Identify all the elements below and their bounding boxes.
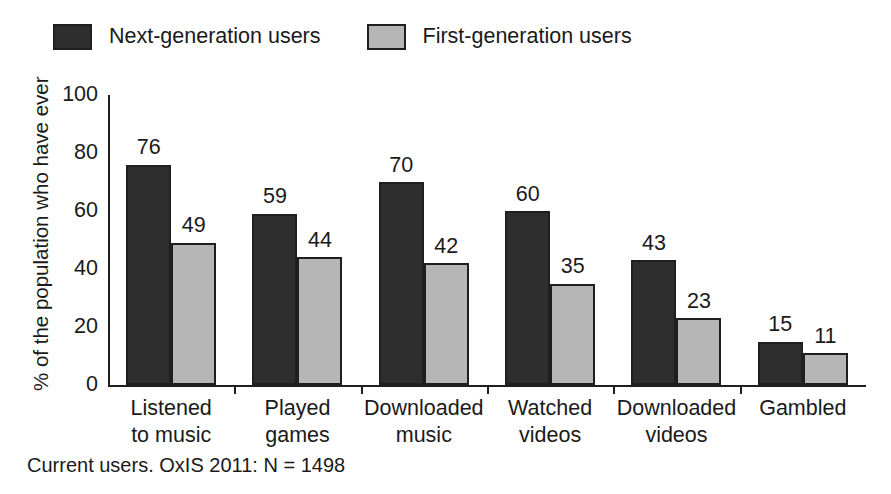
bar-group: 7042 bbox=[361, 95, 487, 385]
chart-legend: Next-generation users First-generation u… bbox=[53, 22, 632, 52]
bar-group: 7649 bbox=[108, 95, 234, 385]
y-axis-tick-label: 20 bbox=[74, 316, 98, 338]
category-label-line2: to music bbox=[108, 422, 234, 449]
bar-slot: 44 bbox=[297, 95, 342, 385]
y-axis-tick-label: 40 bbox=[74, 258, 98, 280]
bar-slot: 76 bbox=[126, 95, 171, 385]
category-label-line1: Downloaded bbox=[617, 396, 737, 420]
category-label-line1: Watched bbox=[508, 396, 592, 420]
bar-value-label: 23 bbox=[687, 291, 711, 313]
bar-chart: Next-generation users First-generation u… bbox=[0, 0, 891, 494]
bar-value-label: 70 bbox=[389, 155, 413, 177]
category-label: Gambled bbox=[740, 395, 866, 457]
bar-value-label: 11 bbox=[814, 326, 836, 348]
bar-value-label: 15 bbox=[768, 314, 792, 336]
bar[interactable] bbox=[550, 284, 595, 386]
bar[interactable] bbox=[505, 211, 550, 385]
bar-value-label: 42 bbox=[434, 236, 458, 258]
y-axis-tick-label: 100 bbox=[62, 84, 98, 106]
category-label-line2: games bbox=[234, 422, 360, 449]
bar[interactable] bbox=[297, 257, 342, 385]
category-label-line2: music bbox=[361, 422, 487, 449]
legend-item-next-generation-users: Next-generation users bbox=[53, 24, 321, 50]
category-label: Downloadedmusic bbox=[361, 395, 487, 457]
category-label-line2: videos bbox=[487, 422, 613, 449]
y-axis-tick-label: 60 bbox=[74, 200, 98, 222]
bar[interactable] bbox=[676, 318, 721, 385]
bar[interactable] bbox=[252, 214, 297, 385]
category-label: Listenedto music bbox=[108, 395, 234, 457]
bar-slot: 49 bbox=[171, 95, 216, 385]
bar-group: 4323 bbox=[613, 95, 739, 385]
bar-slot: 35 bbox=[550, 95, 595, 385]
x-axis-tick bbox=[740, 387, 742, 394]
bar-slot: 15 bbox=[758, 95, 803, 385]
legend-swatch-dark bbox=[53, 24, 92, 50]
category-label-line1: Listened bbox=[131, 396, 212, 420]
bar-value-label: 59 bbox=[263, 186, 287, 208]
category-label: Downloadedvideos bbox=[613, 395, 739, 457]
bar-slot: 59 bbox=[252, 95, 297, 385]
bar[interactable] bbox=[126, 165, 171, 385]
y-axis-tick-label: 0 bbox=[86, 374, 98, 396]
bar-slot: 11 bbox=[803, 95, 848, 385]
category-label-line2: videos bbox=[613, 422, 739, 449]
bar-value-label: 43 bbox=[642, 233, 666, 255]
y-axis-title: % of the population who have ever bbox=[28, 91, 54, 391]
x-axis-tick bbox=[361, 387, 363, 394]
category-label-line1: Downloaded bbox=[364, 396, 484, 420]
legend-label: First-generation users bbox=[423, 26, 632, 48]
bar-value-label: 35 bbox=[561, 256, 585, 278]
bar-slot: 70 bbox=[379, 95, 424, 385]
legend-item-first-generation-users: First-generation users bbox=[367, 24, 632, 50]
bar-slot: 43 bbox=[631, 95, 676, 385]
bar[interactable] bbox=[758, 342, 803, 386]
x-axis-category-labels: Listenedto musicPlayedgamesDownloadedmus… bbox=[108, 395, 866, 457]
y-axis-tick-label: 80 bbox=[74, 142, 98, 164]
chart-footnote: Current users. OxIS 2011: N = 1498 bbox=[27, 455, 345, 475]
bar-groups: 764959447042603543231511 bbox=[108, 95, 866, 385]
bar[interactable] bbox=[424, 263, 469, 385]
bar[interactable] bbox=[803, 353, 848, 385]
legend-label: Next-generation users bbox=[109, 26, 321, 48]
x-axis-tick bbox=[234, 387, 236, 394]
bar-value-label: 44 bbox=[308, 230, 332, 252]
category-label: Watchedvideos bbox=[487, 395, 613, 457]
x-axis-tick bbox=[487, 387, 489, 394]
bar-group: 1511 bbox=[740, 95, 866, 385]
bar-slot: 23 bbox=[676, 95, 721, 385]
x-axis-tick bbox=[613, 387, 615, 394]
bar-group: 5944 bbox=[234, 95, 360, 385]
category-label-line1: Played bbox=[265, 396, 331, 420]
bar-value-label: 49 bbox=[182, 215, 206, 237]
plot-area: 100806040200 764959447042603543231511 bbox=[108, 95, 866, 385]
bar[interactable] bbox=[379, 182, 424, 385]
bar-group: 6035 bbox=[487, 95, 613, 385]
legend-swatch-light bbox=[367, 24, 406, 50]
bar-value-label: 60 bbox=[516, 184, 540, 206]
bar-slot: 42 bbox=[424, 95, 469, 385]
bar-slot: 60 bbox=[505, 95, 550, 385]
bar[interactable] bbox=[631, 260, 676, 385]
category-label: Playedgames bbox=[234, 395, 360, 457]
bar[interactable] bbox=[171, 243, 216, 385]
category-label-line1: Gambled bbox=[759, 396, 846, 420]
bar-value-label: 76 bbox=[137, 137, 161, 159]
